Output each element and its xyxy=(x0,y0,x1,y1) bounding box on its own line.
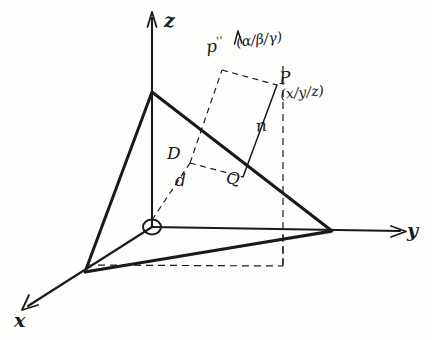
ground-projection-group xyxy=(86,228,283,266)
z-axis-label: z xyxy=(164,11,175,30)
normal-distance-label: n xyxy=(255,117,268,135)
point-q-label: Q xyxy=(226,170,240,187)
x-axis-line xyxy=(28,227,152,306)
diagram-canvas: z y x p'' (α/β/γ) P (x/y/z) n D d Q xyxy=(0,0,432,340)
x-axis-arrowhead xyxy=(22,295,38,310)
y-axis-line xyxy=(152,227,400,231)
point-p-coords: (x/y/z) xyxy=(280,83,325,101)
normal-point-primes: '' xyxy=(215,34,224,48)
x-axis-label: x xyxy=(14,311,25,330)
distance-small-d-label: d xyxy=(175,172,186,189)
normal-point-label: p'' xyxy=(205,35,225,56)
parallelogram-edge-d-to-ptop xyxy=(190,70,222,163)
distance-big-d-label: D xyxy=(167,145,181,162)
parallelogram-edge-ptop-to-p xyxy=(222,70,277,85)
axes-group xyxy=(22,12,406,310)
y-axis-label: y xyxy=(407,221,418,240)
